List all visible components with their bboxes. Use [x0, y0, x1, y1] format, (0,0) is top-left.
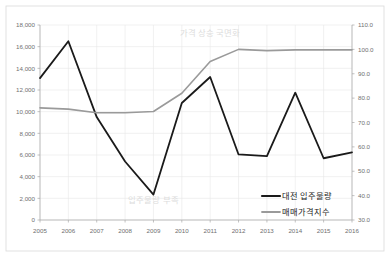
secondary-y-axis-tick-label: 80.0 — [358, 94, 371, 101]
y-axis-tick-label: 6,000 — [20, 151, 36, 158]
y-axis-tick-label: 10,000 — [16, 108, 35, 115]
y-axis-tick-label: 8,000 — [20, 130, 36, 137]
chart-annotation-label: 가격 상승 국면화 — [180, 28, 241, 38]
secondary-y-axis-tick-label: 30.0 — [358, 216, 371, 223]
legend-label: 대전 입주물량 — [282, 191, 332, 201]
x-axis-tick-label: 2005 — [33, 227, 47, 234]
y-axis-tick-label: 18,000 — [16, 21, 35, 28]
secondary-y-axis-tick-label: 70.0 — [358, 119, 371, 126]
y-axis-tick-label: 2,000 — [20, 195, 36, 202]
chart-container: 02,0004,0006,0008,00010,00012,00014,0001… — [0, 0, 390, 257]
y-axis-tick-label: 12,000 — [16, 86, 35, 93]
x-axis-tick-label: 2012 — [232, 227, 246, 234]
legend-label: 매매가격지수 — [282, 207, 330, 217]
y-axis-tick-label: 4,000 — [20, 173, 36, 180]
x-axis-tick-label: 2006 — [61, 227, 75, 234]
secondary-y-axis-tick-label: 100.0 — [358, 46, 374, 53]
data-series — [40, 41, 352, 194]
line-chart: 02,0004,0006,0008,00010,00012,00014,0001… — [0, 0, 390, 257]
secondary-y-axis-tick-label: 40.0 — [358, 192, 371, 199]
x-axis-tick-label: 2015 — [317, 227, 331, 234]
y-axis-tick-label: 0 — [32, 216, 36, 223]
secondary-y-axis-tick-label: 60.0 — [358, 143, 371, 150]
x-axis-tick-label: 2010 — [175, 227, 189, 234]
x-axis-tick-labels: 2005200620072008200920102011201220132014… — [33, 227, 359, 234]
y-axis-tick-label: 14,000 — [16, 65, 35, 72]
x-axis-tick-label: 2009 — [147, 227, 161, 234]
chart-legend: 대전 입주물량매매가격지수 — [262, 191, 332, 217]
x-axis-tick-label: 2013 — [260, 227, 274, 234]
secondary-y-axis-tick-label: 50.0 — [358, 167, 371, 174]
x-axis-tick-label: 2007 — [90, 227, 104, 234]
secondary-y-axis-tick-label: 90.0 — [358, 70, 371, 77]
series-line — [40, 41, 352, 194]
x-axis-tick-label: 2008 — [118, 227, 132, 234]
gridlines — [40, 25, 352, 220]
x-axis-tick-label: 2016 — [345, 227, 359, 234]
chart-annotation-label: 입주물량 부족 — [128, 195, 178, 205]
y-axis-tick-label: 16,000 — [16, 43, 35, 50]
secondary-y-axis-tick-labels: 30.040.050.060.070.080.090.0100.0110.0 — [358, 21, 374, 223]
secondary-y-axis-tick-label: 110.0 — [358, 21, 374, 28]
y-axis-tick-labels: 02,0004,0006,0008,00010,00012,00014,0001… — [16, 21, 35, 223]
series-line — [40, 49, 352, 112]
x-axis-tick-label: 2011 — [204, 227, 218, 234]
x-axis-tick-label: 2014 — [288, 227, 302, 234]
